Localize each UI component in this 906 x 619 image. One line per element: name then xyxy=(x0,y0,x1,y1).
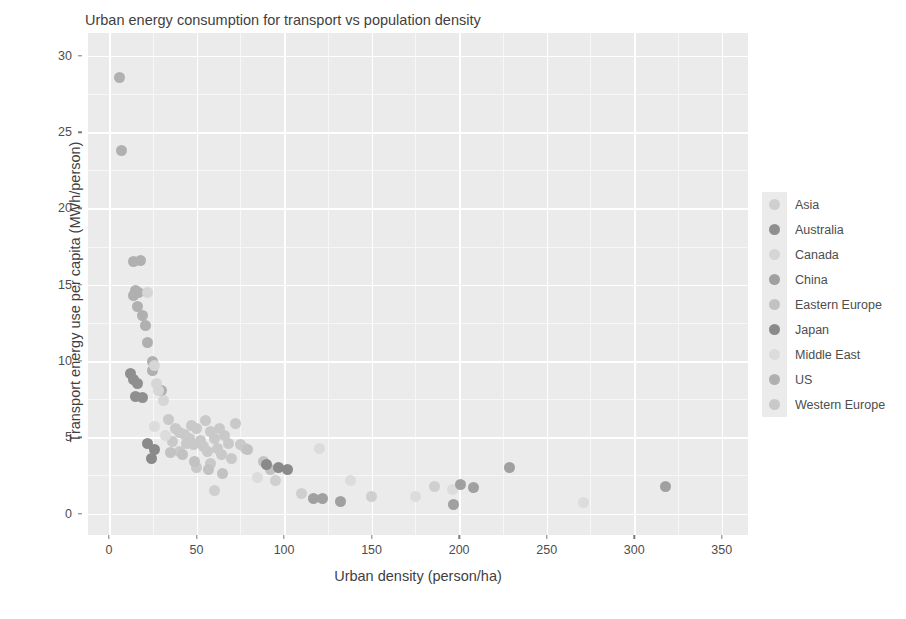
chart-title: Urban energy consumption for transport v… xyxy=(85,12,481,28)
x-tick-label: 0 xyxy=(106,543,113,557)
legend-item-asia: Asia xyxy=(762,192,885,217)
gridline-minor-h xyxy=(88,399,748,400)
scatter-point xyxy=(149,421,160,432)
x-tick-mark xyxy=(371,535,372,539)
x-tick-mark xyxy=(283,535,284,539)
x-tick-label: 150 xyxy=(361,543,382,557)
gridline-major-h xyxy=(88,285,748,287)
scatter-point xyxy=(216,449,227,460)
scatter-point xyxy=(335,496,346,507)
legend-label: Western Europe xyxy=(795,398,885,412)
x-axis-ticks: 050100150200250300350 xyxy=(88,535,748,565)
scatter-point xyxy=(226,453,237,464)
scatter-point xyxy=(137,392,148,403)
legend-key xyxy=(762,267,787,292)
y-tick-mark xyxy=(78,55,82,56)
gridline-minor-h xyxy=(88,94,748,95)
legend-item-china: China xyxy=(762,267,885,292)
scatter-point xyxy=(282,464,293,475)
legend-dot-icon xyxy=(769,249,780,260)
scatter-point xyxy=(142,287,153,298)
scatter-point xyxy=(137,310,148,321)
legend-dot-icon xyxy=(769,324,780,335)
y-tick-mark xyxy=(78,513,82,514)
legend-key xyxy=(762,367,787,392)
legend-dot-icon xyxy=(769,349,780,360)
legend-dot-icon xyxy=(769,399,780,410)
gridline-major-h xyxy=(88,208,748,210)
scatter-point xyxy=(230,418,241,429)
scatter-point xyxy=(455,479,466,490)
scatter-point xyxy=(270,475,281,486)
x-tick-label: 50 xyxy=(190,543,204,557)
legend-key xyxy=(762,317,787,342)
legend-key xyxy=(762,242,787,267)
legend: AsiaAustraliaCanadaChinaEastern EuropeJa… xyxy=(762,192,885,417)
scatter-point xyxy=(146,453,157,464)
legend-item-western-europe: Western Europe xyxy=(762,392,885,417)
scatter-point xyxy=(217,468,228,479)
legend-dot-icon xyxy=(769,199,780,210)
x-tick-label: 300 xyxy=(624,543,645,557)
gridline-major-h xyxy=(88,56,748,58)
scatter-point xyxy=(160,430,171,441)
scatter-point xyxy=(223,438,234,449)
legend-item-us: US xyxy=(762,367,885,392)
scatter-point xyxy=(209,485,220,496)
scatter-point xyxy=(468,482,479,493)
legend-item-middle-east: Middle East xyxy=(762,342,885,367)
scatter-point xyxy=(142,337,153,348)
legend-label: Canada xyxy=(795,248,839,262)
scatter-point xyxy=(135,255,146,266)
x-tick-mark xyxy=(546,535,547,539)
legend-label: Asia xyxy=(795,198,819,212)
scatter-point xyxy=(242,444,253,455)
gridline-minor-h xyxy=(88,323,748,324)
scatter-point xyxy=(366,491,377,502)
gridline-minor-h xyxy=(88,170,748,171)
legend-key xyxy=(762,342,787,367)
x-tick-mark xyxy=(721,535,722,539)
gridline-major-h xyxy=(88,361,748,363)
x-tick-label: 250 xyxy=(536,543,557,557)
legend-key xyxy=(762,192,787,217)
legend-label: US xyxy=(795,373,812,387)
x-tick-label: 100 xyxy=(274,543,295,557)
scatter-point xyxy=(345,475,356,486)
legend-dot-icon xyxy=(769,299,780,310)
legend-key xyxy=(762,217,787,242)
gridline-minor-h xyxy=(88,475,748,476)
gridline-minor-h xyxy=(88,247,748,248)
y-tick-label: 30 xyxy=(58,49,72,63)
y-axis-label: Transport energy use per capita (MWh/per… xyxy=(67,82,83,502)
scatter-point xyxy=(186,420,197,431)
x-tick-mark xyxy=(108,535,109,539)
scatter-point xyxy=(158,395,169,406)
x-tick-mark xyxy=(634,535,635,539)
scatter-point xyxy=(578,497,589,508)
scatter-chart: Urban energy consumption for transport v… xyxy=(0,0,906,619)
scatter-point xyxy=(202,446,213,457)
y-tick-label: 0 xyxy=(65,507,72,521)
scatter-point xyxy=(203,464,214,475)
legend-dot-icon xyxy=(769,224,780,235)
scatter-point xyxy=(165,447,176,458)
x-tick-mark xyxy=(458,535,459,539)
scatter-point xyxy=(317,493,328,504)
scatter-point xyxy=(177,449,188,460)
x-tick-label: 200 xyxy=(449,543,470,557)
legend-item-canada: Canada xyxy=(762,242,885,267)
x-tick-label: 350 xyxy=(711,543,732,557)
scatter-point xyxy=(448,499,459,510)
legend-label: Japan xyxy=(795,323,829,337)
plot-panel xyxy=(88,33,748,535)
legend-label: China xyxy=(795,273,828,287)
gridline-major-h xyxy=(88,132,748,134)
scatter-point xyxy=(140,320,151,331)
x-axis-label: Urban density (person/ha) xyxy=(88,568,748,584)
legend-item-australia: Australia xyxy=(762,217,885,242)
scatter-point xyxy=(504,462,515,473)
scatter-point xyxy=(214,423,225,434)
legend-dot-icon xyxy=(769,374,780,385)
legend-item-japan: Japan xyxy=(762,317,885,342)
